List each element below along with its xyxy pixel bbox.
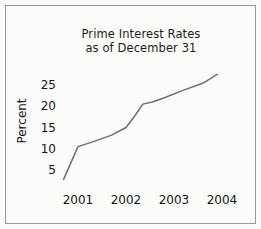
chart-figure: Prime Interest Rates as of December 31 P… — [0, 0, 261, 229]
plot-area — [0, 0, 261, 229]
data-line-prime-interest-rate — [64, 74, 218, 179]
